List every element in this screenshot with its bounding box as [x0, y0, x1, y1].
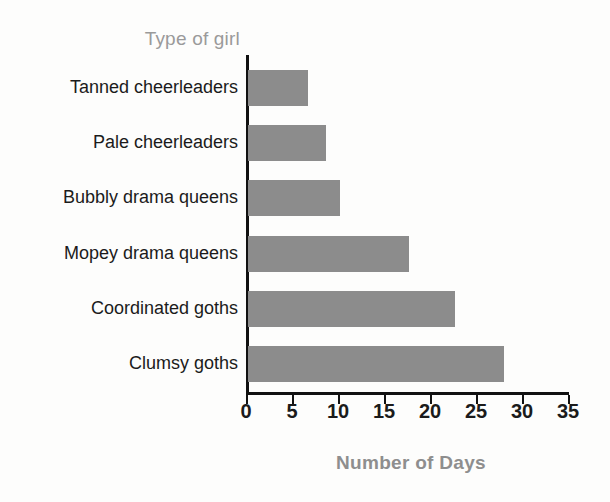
x-axis-line: [246, 392, 569, 395]
x-axis-tick-label: 35: [557, 400, 579, 423]
category-label: Tanned cheerleaders: [0, 78, 238, 96]
category-label: Coordinated goths: [0, 299, 238, 317]
plot-area: [246, 60, 568, 392]
x-axis-tick-labels: 05101520253035: [246, 400, 576, 430]
y-axis-title: Type of girl: [0, 28, 240, 50]
category-label: Mopey drama queens: [0, 244, 238, 262]
x-axis-tick-label: 0: [240, 400, 251, 423]
category-label: Pale cheerleaders: [0, 133, 238, 151]
category-label: Clumsy goths: [0, 354, 238, 372]
x-axis-tick-label: 15: [373, 400, 395, 423]
x-axis-tick-label: 10: [327, 400, 349, 423]
x-axis-tick-label: 5: [286, 400, 297, 423]
bar: [248, 346, 504, 382]
category-axis-labels: Tanned cheerleadersPale cheerleadersBubb…: [0, 60, 238, 392]
bar: [248, 70, 308, 106]
x-axis-tick-label: 30: [511, 400, 533, 423]
bar: [248, 180, 340, 216]
x-axis-tick-label: 25: [465, 400, 487, 423]
bar-chart: Type of girl Tanned cheerleadersPale che…: [0, 0, 610, 502]
category-label: Bubbly drama queens: [0, 188, 238, 206]
x-axis-title: Number of Days: [246, 452, 576, 474]
bar: [248, 125, 326, 161]
bar: [248, 291, 455, 327]
bar: [248, 236, 409, 272]
x-axis-tick-label: 20: [419, 400, 441, 423]
